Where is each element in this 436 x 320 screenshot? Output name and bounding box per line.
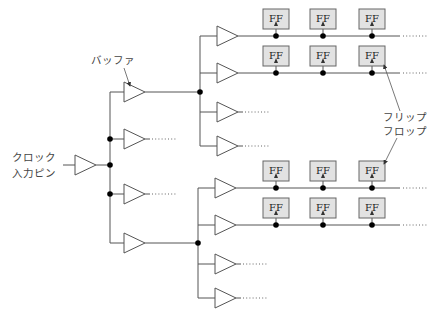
junction-node <box>107 191 113 197</box>
buffer-triangle-icon <box>217 63 238 83</box>
junction-node <box>273 185 279 191</box>
buffer-triangle-icon <box>124 184 145 204</box>
junction-node <box>197 89 203 95</box>
buffer-triangle-icon <box>75 155 96 175</box>
buffer-label: バッファ <box>91 54 135 66</box>
buffer-triangle-icon <box>124 82 145 102</box>
buffer-triangle-icon <box>124 233 145 253</box>
junction-node <box>320 222 326 228</box>
flipflop-label-line2: フロップ <box>383 125 427 137</box>
junction-node <box>369 222 375 228</box>
buffers <box>75 26 238 308</box>
junction-node <box>273 70 279 76</box>
buffer-triangle-icon <box>215 288 236 308</box>
clock-pin-label-line1: クロック <box>12 151 56 163</box>
flipflop-label-arrow-down <box>384 138 397 164</box>
clock-pin-label-line2: 入力ピン <box>12 167 56 179</box>
buffer-triangle-icon <box>217 102 238 122</box>
junction-node <box>369 185 375 191</box>
buffer-triangle-icon <box>215 215 236 235</box>
flipflop-label-line1: フリップ <box>383 111 427 123</box>
clock-tree-diagram: FFFFFFFFFFFFFFFFFFFFFFFF バッファ クロック 入力ピン … <box>0 0 436 320</box>
junction-node <box>369 70 375 76</box>
junction-node <box>320 70 326 76</box>
buffer-triangle-icon <box>215 178 236 198</box>
buffer-triangle-icon <box>215 254 236 274</box>
junction-node <box>107 162 113 168</box>
junction-node <box>107 136 113 142</box>
buffer-triangle-icon <box>217 136 238 156</box>
junction-node <box>320 185 326 191</box>
junction-node <box>320 33 326 39</box>
junction-node <box>273 33 279 39</box>
buffer-triangle-icon <box>124 129 145 149</box>
junction-node <box>369 33 375 39</box>
junction-node <box>195 240 201 246</box>
flipflop-label-arrow-up <box>384 65 400 111</box>
junction-node <box>273 222 279 228</box>
buffer-triangle-icon <box>217 26 238 46</box>
